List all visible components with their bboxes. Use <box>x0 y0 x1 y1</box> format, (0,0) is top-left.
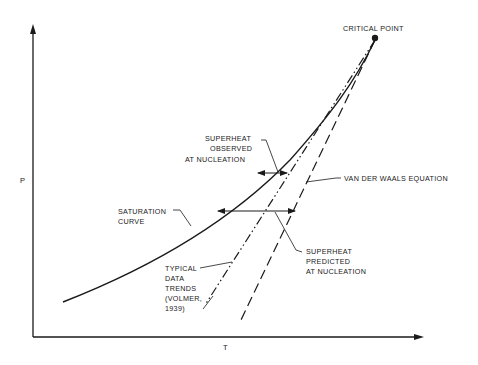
svg-text:TRENDS: TRENDS <box>165 284 196 293</box>
x-axis-arrow-icon <box>414 334 424 340</box>
superheat-predicted-leader <box>275 212 302 252</box>
svg-text:DATA: DATA <box>165 274 184 283</box>
typical-data-trends-leader-2 <box>203 296 213 309</box>
superheat-observed-label: SUPERHEAT OBSERVED AT NUCLEATION <box>185 134 252 164</box>
superheat-observed-leader <box>261 140 278 172</box>
axes: P T <box>20 24 424 352</box>
svg-text:CURVE: CURVE <box>118 217 145 226</box>
svg-text:SUPERHEAT: SUPERHEAT <box>205 134 251 143</box>
svg-text:SUPERHEAT: SUPERHEAT <box>306 247 352 256</box>
svg-text:AT NUCLEATION: AT NUCLEATION <box>185 155 245 164</box>
van-der-waals-label: VAN DER WAALS EQUATION <box>344 174 448 183</box>
typical-data-trends-label: TYPICAL DATA TRENDS (VOLMER, 1939) <box>165 264 202 313</box>
svg-text:(VOLMER,: (VOLMER, <box>165 294 202 303</box>
svg-text:SATURATION: SATURATION <box>118 207 166 216</box>
svg-text:AT NUCLEATION: AT NUCLEATION <box>306 267 366 276</box>
superheat-predicted-label: SUPERHEAT PREDICTED AT NUCLEATION <box>306 247 366 276</box>
x-axis-label: T <box>223 343 228 352</box>
y-axis-arrow-icon <box>30 24 36 34</box>
van-der-waals-leader <box>306 178 341 182</box>
saturation-curve-leader <box>173 210 191 226</box>
svg-text:1939): 1939) <box>165 304 185 313</box>
svg-text:PREDICTED: PREDICTED <box>306 257 350 266</box>
svg-text:TYPICAL: TYPICAL <box>165 264 197 273</box>
critical-point-label: CRITICAL POINT <box>343 24 404 33</box>
y-axis-label: P <box>20 176 25 185</box>
pt-phase-diagram: P T CRITICAL POINT SUPERHEAT OBSERVED AT… <box>0 0 478 365</box>
critical-point-marker <box>372 35 378 41</box>
svg-text:OBSERVED: OBSERVED <box>210 144 252 153</box>
typical-data-trends-leader <box>200 262 232 268</box>
saturation-curve-label: SATURATION CURVE <box>118 207 166 226</box>
